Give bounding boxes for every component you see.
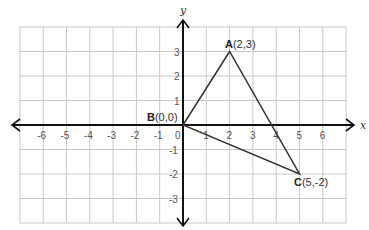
triangle-abc: [183, 52, 300, 175]
x-tick-label: -5: [61, 130, 70, 141]
x-tick-label: -1: [154, 130, 163, 141]
x-axis-label: x: [360, 119, 367, 132]
y-tick-label: -1: [169, 145, 178, 156]
point-labels: A(2,3) B(0,0) C(5,-2): [147, 38, 328, 188]
x-tick-label: 3: [250, 130, 256, 141]
coordinate-plane: x y -6-5-4-3-2-10123456321-1-2-3 A(2,3) …: [0, 0, 369, 230]
x-tick-label: -3: [107, 130, 116, 141]
x-tick-label: -6: [37, 130, 46, 141]
x-tick-label: -2: [130, 130, 139, 141]
x-tick-label: 0: [175, 130, 181, 141]
y-tick-label: 1: [174, 96, 180, 107]
triangle-outline: [183, 52, 300, 175]
y-axis-label: y: [179, 4, 187, 17]
x-tick-label: 6: [320, 130, 326, 141]
point-b-label: B(0,0): [147, 111, 178, 123]
y-tick-label: -2: [169, 169, 178, 180]
x-tick-label: -4: [84, 130, 93, 141]
y-tick-label: 2: [174, 71, 180, 82]
point-a-label: A(2,3): [225, 38, 256, 50]
x-tick-label: 5: [297, 130, 303, 141]
point-c-label: C(5,-2): [294, 176, 328, 188]
y-tick-label: 3: [174, 47, 180, 58]
x-tick-label: 2: [227, 130, 233, 141]
y-tick-label: -3: [169, 194, 178, 205]
